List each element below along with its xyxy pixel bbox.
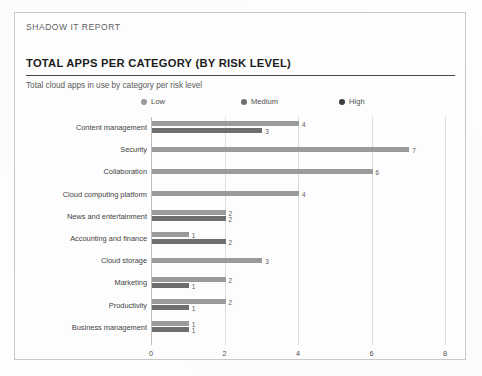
category-label: Cloud storage bbox=[17, 256, 147, 265]
x-axis-tick-label: 6 bbox=[370, 349, 374, 358]
legend-item-low[interactable]: Low bbox=[141, 97, 165, 106]
bar-value-label: 3 bbox=[265, 258, 269, 265]
legend-label: Medium bbox=[251, 97, 278, 106]
bar-low bbox=[152, 210, 226, 215]
report-tag: SHADOW IT REPORT bbox=[26, 22, 120, 32]
bar-low bbox=[152, 258, 262, 263]
bar-value-label: 4 bbox=[302, 191, 306, 198]
bar-value-label: 2 bbox=[229, 299, 233, 306]
x-axis-tick-label: 0 bbox=[149, 349, 153, 358]
x-axis-tick-label: 4 bbox=[296, 349, 300, 358]
category-label: Cloud computing platform bbox=[17, 190, 147, 199]
bar-medium bbox=[152, 283, 189, 288]
category-label: Business management bbox=[17, 323, 147, 332]
bar-value-label: 6 bbox=[376, 169, 380, 176]
bar-value-label: 2 bbox=[229, 239, 233, 246]
bar-low bbox=[152, 121, 299, 126]
bar-value-label: 4 bbox=[302, 121, 306, 128]
legend-label: High bbox=[349, 97, 365, 106]
category-label: Productivity bbox=[17, 301, 147, 310]
bar-medium bbox=[152, 128, 262, 133]
bar-value-label: 2 bbox=[229, 277, 233, 284]
legend-swatch-high-icon bbox=[339, 99, 345, 105]
legend-swatch-medium-icon bbox=[241, 99, 247, 105]
chart-subtitle: Total cloud apps in use by category per … bbox=[26, 81, 202, 90]
chart-title: TOTAL APPS PER CATEGORY (BY RISK LEVEL) bbox=[26, 57, 291, 69]
legend-swatch-low-icon bbox=[141, 99, 147, 105]
legend-label: Low bbox=[151, 97, 165, 106]
bar-low bbox=[152, 191, 299, 196]
page-background: SHADOW IT REPORT TOTAL APPS PER CATEGORY… bbox=[0, 0, 482, 376]
report-card: SHADOW IT REPORT TOTAL APPS PER CATEGORY… bbox=[14, 12, 466, 360]
bar-value-label: 2 bbox=[229, 216, 233, 223]
bar-low bbox=[152, 277, 226, 282]
x-axis-tick-label: 8 bbox=[443, 349, 447, 358]
category-label: Collaboration bbox=[17, 167, 147, 176]
bar-value-label: 1 bbox=[192, 305, 196, 312]
category-label: Accounting and finance bbox=[17, 234, 147, 243]
category-label: News and entertainment bbox=[17, 212, 147, 221]
gridline-8 bbox=[445, 117, 446, 345]
bar-low bbox=[152, 321, 189, 326]
bar-value-label: 3 bbox=[265, 128, 269, 135]
bar-value-label: 7 bbox=[412, 147, 416, 154]
chart-plot-area: Content managementSecurityCollaborationC… bbox=[15, 117, 467, 361]
bar-low bbox=[152, 299, 226, 304]
bar-low bbox=[152, 232, 189, 237]
x-axis-tick-label: 2 bbox=[223, 349, 227, 358]
category-label: Content management bbox=[17, 123, 147, 132]
category-label: Security bbox=[17, 145, 147, 154]
bar-low bbox=[152, 147, 409, 152]
bar-medium bbox=[152, 305, 189, 310]
bar-medium bbox=[152, 216, 226, 221]
bar-value-label: 1 bbox=[192, 283, 196, 290]
value-axis-area: 024684376422123212111 bbox=[151, 117, 451, 361]
category-axis-labels: Content managementSecurityCollaborationC… bbox=[15, 117, 147, 347]
title-divider bbox=[26, 75, 455, 76]
legend-item-medium[interactable]: Medium bbox=[241, 97, 278, 106]
bar-medium bbox=[152, 239, 226, 244]
category-label: Marketing bbox=[17, 278, 147, 287]
bar-low bbox=[152, 169, 373, 174]
bar-medium bbox=[152, 327, 189, 332]
chart-legend: LowMediumHigh bbox=[141, 97, 441, 111]
bar-value-label: 1 bbox=[192, 327, 196, 334]
legend-item-high[interactable]: High bbox=[339, 97, 365, 106]
